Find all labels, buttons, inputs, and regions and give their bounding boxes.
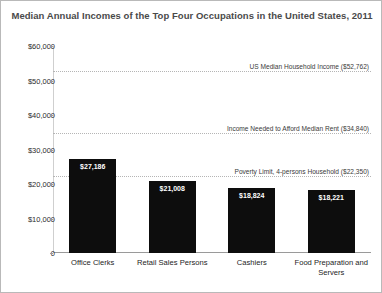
reference-line xyxy=(53,71,371,72)
y-axis-tick-mark xyxy=(50,219,53,220)
x-axis-category-label: Food Preparation and Servers xyxy=(292,258,372,277)
bar: $21,008 xyxy=(149,181,196,253)
y-axis-tick-label: $30,000 xyxy=(9,145,55,154)
bar: $18,824 xyxy=(228,188,275,253)
y-axis-tick-label: $10,000 xyxy=(9,214,55,223)
reference-line-label: Income Needed to Afford Median Rent ($34… xyxy=(227,125,369,133)
bar-value-label: $18,221 xyxy=(308,194,355,201)
y-axis-tick-mark xyxy=(50,150,53,151)
x-axis-category-label: Retail Sales Persons xyxy=(133,258,213,268)
bar: $18,221 xyxy=(308,190,355,253)
plot-area: $60,000$50,000$40,000$30,000$20,000$10,0… xyxy=(53,46,371,253)
bar-value-label: $18,824 xyxy=(228,192,275,199)
chart-container: Median Annual Incomes of the Top Four Oc… xyxy=(0,0,382,293)
y-axis-tick-label: $50,000 xyxy=(9,76,55,85)
y-axis-tick-label: $60,000 xyxy=(9,42,55,51)
y-axis-tick-mark xyxy=(50,46,53,47)
y-axis-tick-label: 0 xyxy=(9,249,55,258)
reference-line-label: US Median Household Income ($52,762) xyxy=(250,63,370,71)
y-axis-tick-mark xyxy=(50,184,53,185)
y-axis-tick-label: $20,000 xyxy=(9,180,55,189)
x-axis-category-label: Office Clerks xyxy=(53,258,133,268)
chart-title: Median Annual Incomes of the Top Four Oc… xyxy=(1,10,382,21)
reference-line-label: Poverty Limit, 4-persons Household ($22,… xyxy=(234,168,369,176)
y-axis-tick-mark xyxy=(50,115,53,116)
y-axis-tick-label: $40,000 xyxy=(9,111,55,120)
reference-line xyxy=(53,133,371,134)
y-axis-tick-mark xyxy=(50,253,53,254)
y-axis-tick-mark xyxy=(50,81,53,82)
bar: $27,186 xyxy=(69,159,116,253)
bar-value-label: $27,186 xyxy=(69,163,116,170)
bar-value-label: $21,008 xyxy=(149,185,196,192)
x-axis-category-label: Cashiers xyxy=(212,258,292,268)
